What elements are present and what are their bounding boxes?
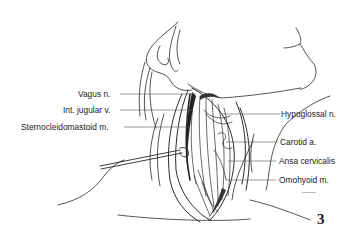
label-sternocleidomastoid-muscle: Sternocleidomastoid m. — [21, 122, 109, 132]
label-hypoglossal-nerve: Hypoglossal n. — [281, 109, 336, 119]
label-carotid-artery: Carotid a. — [280, 137, 316, 147]
label-omohyoid-muscle: Omohyoid m. — [279, 175, 329, 185]
anatomical-figure: Vagus n. Int. jugular v. Sternocleidomas… — [0, 0, 359, 239]
label-internal-jugular-vein: Int. jugular v. — [63, 105, 110, 115]
label-ansa-cervicalis: Ansa cervicalis — [279, 156, 335, 166]
ear-outline — [139, 22, 192, 128]
artist-signature — [302, 189, 316, 193]
figure-number: 3 — [317, 211, 325, 228]
jaw-outline — [188, 28, 316, 98]
label-vagus-nerve: Vagus n. — [78, 89, 110, 99]
neck-dissection-illustration — [0, 0, 359, 239]
